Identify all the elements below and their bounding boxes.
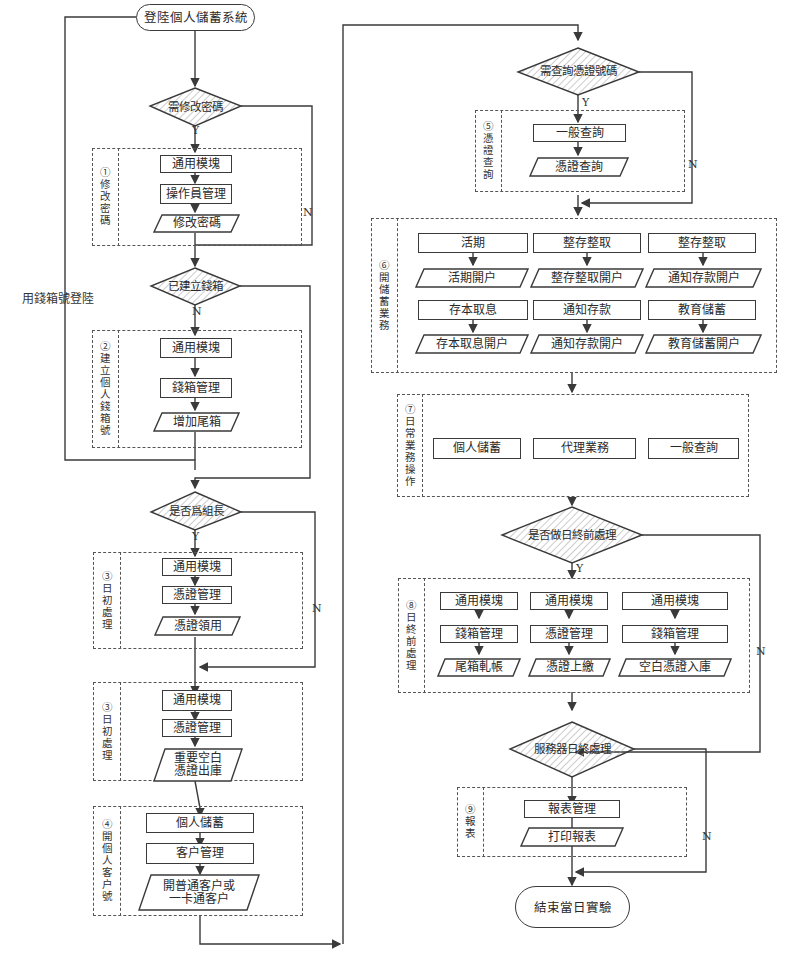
io-box: 修改密碼: [153, 214, 240, 233]
io-box: 通知存款開户: [530, 334, 644, 354]
io-label: 存本取息開户: [436, 338, 508, 351]
io-box: 整存整取開户: [530, 268, 644, 288]
group-label-text: ⑨報表: [463, 804, 478, 840]
io-label: 空白憑證入庫: [639, 661, 711, 674]
group-label: ⑦日常業務操作: [397, 394, 423, 497]
io-box: 教育儲蓄開户: [645, 334, 762, 354]
group-label-text: ⑧日終前處理: [404, 600, 419, 672]
process-label: 通用模塊: [172, 342, 220, 355]
io-box: 憑證領用: [154, 616, 241, 636]
group-label: ⑥開儲蓄業務: [371, 218, 398, 373]
decision-label: 已建立錢箱: [168, 280, 223, 293]
group-label: ①修改密碼: [92, 148, 119, 246]
process-label: 憑證管理: [545, 628, 593, 641]
io-label: 通知存款開户: [551, 338, 623, 351]
process-box: 代理業務: [533, 438, 636, 459]
io-label: 重要空白 憑證出庫: [174, 752, 222, 778]
process-box: 通用模塊: [530, 592, 608, 610]
process-label: 憑證管理: [173, 589, 221, 602]
process-label: 錢箱管理: [455, 628, 503, 641]
yes-label: Y: [192, 530, 199, 543]
process-box: 通用模塊: [160, 155, 232, 173]
process-label: 活期: [461, 237, 485, 250]
io-label: 憑證上繳: [546, 661, 594, 674]
group-label: ③日初處理: [93, 552, 121, 649]
io-label: 尾箱軋帳: [455, 661, 503, 674]
io-box: 重要空白 憑證出庫: [153, 748, 243, 782]
decision-label: 是否做日終前處理: [528, 529, 616, 542]
process-label: 個人儲蓄: [176, 817, 224, 830]
io-box: 空白憑證入庫: [618, 658, 732, 677]
process-label: 通用模塊: [173, 694, 221, 707]
process-label: 憑證管理: [173, 722, 221, 735]
process-box: 通用模塊: [162, 558, 232, 576]
io-box: 活期開户: [415, 268, 529, 288]
process-box: 客户管理: [146, 843, 254, 864]
process-label: 一般查詢: [556, 127, 604, 140]
decision-change-password: 需修改密碼: [150, 88, 241, 126]
process-box: 錢箱管理: [160, 378, 232, 398]
process-box: 憑證管理: [162, 586, 232, 604]
process-label: 通用模塊: [172, 158, 220, 171]
process-box: 操作員管理: [160, 184, 232, 204]
group-label-text: ④開個人客户號: [99, 819, 114, 903]
io-box: 憑證上繳: [528, 658, 611, 677]
process-label: 通用模塊: [545, 595, 593, 608]
group-label: ⑨報表: [457, 787, 484, 857]
io-box: 增加尾箱: [153, 412, 240, 432]
process-box: 錢箱管理: [440, 625, 518, 643]
end-label: 結束當日實驗: [534, 901, 612, 914]
group-label-text: ⑥開儲蓄業務: [377, 260, 392, 332]
io-label: 開普通客户或 一卡通客户: [163, 880, 235, 906]
yes-label: Y: [582, 96, 589, 109]
group-label: ③日初處理: [93, 682, 121, 781]
process-box: 個人儲蓄: [433, 438, 521, 459]
process-label: 存本取息: [449, 304, 497, 317]
process-box: 教育儲蓄: [648, 300, 756, 320]
process-box: 憑證管理: [530, 625, 608, 643]
group-label: ④開個人客户號: [93, 806, 121, 916]
no-label: N: [688, 158, 698, 171]
no-label: N: [756, 645, 766, 658]
process-box: 存本取息: [418, 300, 528, 320]
process-box: 整存整取: [533, 233, 641, 253]
decision-label: 服務器日終處理: [534, 743, 611, 756]
decision-label: 需修改密碼: [168, 101, 223, 114]
group-label-text: ③日初處理: [99, 571, 114, 631]
process-label: 一般查詢: [670, 442, 718, 455]
process-label: 整存整取: [678, 237, 726, 250]
group-label: ⑤憑證查詢: [475, 110, 502, 192]
end-terminal: 結束當日實驗: [515, 886, 630, 928]
group-label-text: ①修改密碼: [98, 167, 113, 227]
io-box: 尾箱軋帳: [437, 658, 521, 677]
no-label: N: [192, 305, 202, 318]
group-label: ②建立個人錢箱號: [92, 330, 119, 448]
group-label-text: ②建立個人錢箱號: [98, 341, 113, 437]
process-box: 一般查詢: [533, 124, 626, 142]
group-voucher-query: [475, 110, 685, 192]
start-label: 登陸個人儲蓄系統: [144, 11, 248, 24]
no-label: N: [702, 830, 712, 843]
no-label: N: [312, 602, 322, 615]
process-box: 活期: [418, 233, 528, 253]
group-label-text: ⑦日常業務操作: [402, 404, 417, 488]
group-label: ⑧日終前處理: [398, 578, 425, 693]
cashbox-login-label: 用錢箱號登陸: [22, 289, 94, 306]
decision-label: 需查詢憑證號碼: [540, 65, 617, 78]
group-label-text: ③日初處理: [99, 702, 114, 762]
io-box: 憑證查詢: [529, 157, 629, 177]
io-box: 開普通客户或 一卡通客户: [138, 874, 260, 911]
yes-label: Y: [576, 562, 583, 575]
decision-server-eod: 服務器日終處理: [510, 722, 634, 777]
process-box: 憑證管理: [162, 719, 232, 737]
process-label: 客户管理: [176, 847, 224, 860]
decision-eod-pre: 是否做日終前處理: [502, 507, 642, 563]
io-label: 整存整取開户: [551, 272, 623, 285]
process-label: 通知存款: [563, 304, 611, 317]
start-terminal: 登陸個人儲蓄系統: [136, 4, 255, 31]
io-label: 憑證查詢: [555, 161, 603, 174]
process-label: 通用模塊: [173, 561, 221, 574]
io-label: 修改密碼: [173, 217, 221, 230]
process-box: 通用模塊: [162, 690, 232, 711]
process-box: 通知存款: [533, 300, 641, 320]
